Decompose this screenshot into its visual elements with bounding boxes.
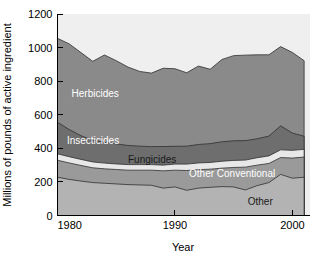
series-label-fungicides: Fungicides [128, 154, 176, 165]
y-axis-tick-labels: 020040060080010001200 [28, 8, 52, 222]
x-tick-label: 2000 [280, 219, 304, 231]
y-tick-label: 200 [34, 176, 52, 188]
x-axis-title: Year [172, 241, 195, 253]
y-axis-title: Millions of pounds of active ingredient [1, 23, 13, 206]
series-label-other-conventional: Other Conventional [189, 168, 275, 179]
x-tick-label: 1980 [58, 219, 82, 231]
chart-figure: 020040060080010001200 198019902000 Other… [0, 0, 325, 256]
series-label-insecticides: Insecticides [67, 135, 119, 146]
y-tick-label: 800 [34, 75, 52, 87]
y-tick-label: 600 [34, 109, 52, 121]
y-tick-label: 1200 [28, 8, 52, 20]
y-tick-label: 400 [34, 142, 52, 154]
x-tick-label: 1990 [163, 219, 187, 231]
x-axis-tick-labels: 198019902000 [58, 219, 305, 231]
series-label-other: Other [248, 196, 274, 207]
stacked-area-chart: 020040060080010001200 198019902000 Other… [0, 0, 325, 256]
series-label-herbicides: Herbicides [72, 88, 119, 99]
y-tick-label: 1000 [28, 42, 52, 54]
y-tick-label: 0 [46, 210, 52, 222]
